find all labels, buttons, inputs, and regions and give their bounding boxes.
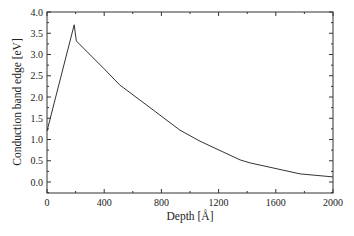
y-tick-label: 4.0 — [31, 7, 44, 18]
x-tick-label: 800 — [154, 197, 169, 208]
conduction-band-curve — [47, 25, 333, 177]
x-tick-label: 0 — [45, 197, 50, 208]
x-tick-label: 400 — [97, 197, 112, 208]
y-tick-label: 0.0 — [31, 177, 44, 188]
y-axis-label: Conduction band edge [eV] — [11, 38, 24, 165]
plot-frame — [47, 12, 333, 193]
x-axis-ticks: 0400800120016002000 — [45, 12, 344, 208]
x-tick-label: 1600 — [266, 197, 286, 208]
x-tick-label: 1200 — [209, 197, 229, 208]
x-tick-label: 2000 — [323, 197, 343, 208]
chart: 0400800120016002000 0.00.51.01.52.02.53.… — [0, 0, 354, 236]
y-tick-label: 1.5 — [31, 113, 44, 124]
y-tick-label: 3.0 — [31, 49, 44, 60]
y-tick-label: 2.0 — [31, 92, 44, 103]
x-axis-label: Depth [Å] — [167, 209, 214, 223]
y-tick-label: 1.0 — [31, 134, 44, 145]
y-tick-label: 2.5 — [31, 70, 44, 81]
y-tick-label: 0.5 — [31, 155, 44, 166]
y-tick-label: 3.5 — [31, 28, 44, 39]
